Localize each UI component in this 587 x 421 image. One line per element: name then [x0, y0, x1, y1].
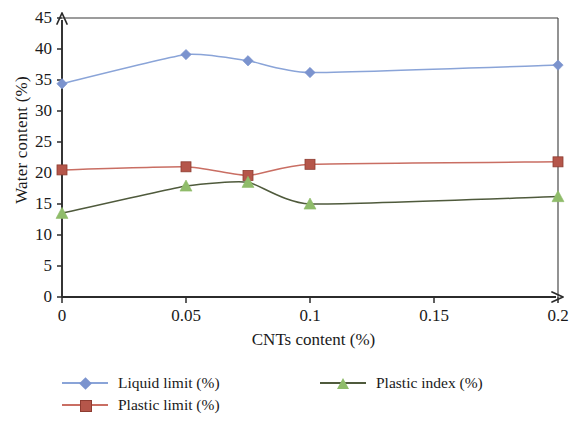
data-point-liquid-limit	[305, 67, 315, 77]
legend-item-plastic-limit[interactable]: Plastic limit (%)	[62, 394, 220, 416]
legend-column-right: Plastic index (%)	[320, 372, 483, 394]
data-point-plastic-limit	[181, 162, 191, 172]
x-axis-title-text: CNTs content (%)	[212, 330, 375, 349]
legend-label-plastic-limit: Plastic limit (%)	[118, 396, 220, 414]
legend-label-plastic-index: Plastic index (%)	[376, 374, 483, 392]
data-point-liquid-limit	[553, 60, 563, 70]
legend-label-liquid-limit: Liquid limit (%)	[118, 374, 220, 392]
x-axis-tick-label: 0.1	[299, 306, 320, 326]
data-point-plastic-limit	[553, 157, 563, 167]
data-point-plastic-limit	[57, 165, 67, 175]
data-point-liquid-limit	[181, 49, 191, 59]
legend-column-left: Liquid limit (%) Plastic limit (%)	[62, 372, 220, 416]
legend-item-plastic-index[interactable]: Plastic index (%)	[320, 372, 483, 394]
data-point-liquid-limit	[243, 56, 253, 66]
chart-container: Water content (%) 051015202530354045 00.…	[0, 0, 587, 421]
x-axis-tick-label: 0.2	[547, 306, 568, 326]
plot-area	[0, 0, 587, 421]
data-point-plastic-limit	[305, 159, 315, 169]
x-axis-tick-label: 0	[58, 306, 67, 326]
legend-marker-liquid-limit	[62, 376, 108, 390]
x-axis-tick-label: 0.05	[171, 306, 201, 326]
legend-item-liquid-limit[interactable]: Liquid limit (%)	[62, 372, 220, 394]
legend-marker-plastic-index	[320, 376, 366, 390]
x-axis-tick-label: 0.15	[419, 306, 449, 326]
x-axis-title: CNTs content (%)	[0, 330, 587, 350]
legend-marker-plastic-limit	[62, 398, 108, 412]
